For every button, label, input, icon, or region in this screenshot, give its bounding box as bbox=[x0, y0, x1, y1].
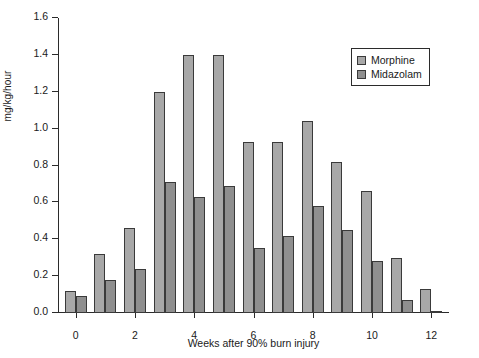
y-tick-label: 1.4 bbox=[33, 47, 48, 59]
bar-morphine-week-2 bbox=[124, 228, 135, 313]
y-tick-label: 0.2 bbox=[33, 268, 48, 280]
bar-morphine-week-10 bbox=[361, 191, 372, 313]
bar-midazolam-week-4 bbox=[194, 197, 205, 313]
y-tick: 1.2 bbox=[52, 91, 58, 92]
y-tick: 1.0 bbox=[52, 128, 58, 129]
x-tick: 2 bbox=[135, 313, 136, 318]
bar-midazolam-week-0 bbox=[76, 296, 87, 313]
y-tick: 0.4 bbox=[52, 238, 58, 239]
bar-morphine-week-3 bbox=[154, 92, 165, 313]
x-tick: 8 bbox=[313, 313, 314, 318]
bar-midazolam-week-7 bbox=[283, 236, 294, 313]
bar-midazolam-week-8 bbox=[313, 206, 324, 313]
x-tick: 12 bbox=[431, 313, 432, 318]
y-tick-label: 1.0 bbox=[33, 121, 48, 133]
bar-morphine-week-9 bbox=[331, 162, 342, 313]
y-tick: 1.4 bbox=[52, 54, 58, 55]
bar-morphine-week-11 bbox=[391, 258, 402, 313]
chart-figure: mg/kg/hour 0.00.20.40.60.81.01.21.41.6 0… bbox=[0, 0, 479, 358]
bar-morphine-week-6 bbox=[243, 142, 254, 313]
legend-swatch-icon-morphine bbox=[357, 56, 366, 65]
y-tick: 0.8 bbox=[52, 165, 58, 166]
x-tick: 10 bbox=[372, 313, 373, 318]
legend-item-midazolam: Midazolam bbox=[357, 67, 422, 81]
bar-midazolam-week-3 bbox=[165, 182, 176, 313]
legend-label-morphine: Morphine bbox=[371, 54, 415, 66]
y-axis-line bbox=[58, 18, 59, 313]
bar-midazolam-week-10 bbox=[372, 261, 383, 313]
bar-midazolam-week-1 bbox=[105, 280, 116, 313]
x-tick: 6 bbox=[254, 313, 255, 318]
bar-midazolam-week-6 bbox=[254, 248, 265, 313]
y-tick-label: 0.0 bbox=[33, 305, 48, 317]
bar-morphine-week-8 bbox=[302, 121, 313, 313]
y-tick: 0.0 bbox=[52, 312, 58, 313]
chart-legend: Morphine Midazolam bbox=[351, 48, 430, 86]
legend-swatch-icon-midazolam bbox=[357, 70, 366, 79]
legend-item-morphine: Morphine bbox=[357, 53, 422, 67]
y-axis-title: mg/kg/hour bbox=[2, 36, 13, 156]
legend-label-midazolam: Midazolam bbox=[371, 68, 422, 80]
bar-midazolam-week-9 bbox=[342, 230, 353, 313]
y-tick: 0.6 bbox=[52, 201, 58, 202]
bar-morphine-week-12 bbox=[420, 289, 431, 313]
y-tick: 0.2 bbox=[52, 275, 58, 276]
bar-midazolam-week-5 bbox=[224, 186, 235, 313]
bar-morphine-week-5 bbox=[213, 55, 224, 313]
bar-morphine-week-7 bbox=[272, 142, 283, 313]
bar-morphine-week-4 bbox=[183, 55, 194, 313]
bar-morphine-week-0 bbox=[65, 291, 76, 313]
y-tick-label: 0.6 bbox=[33, 194, 48, 206]
y-tick-label: 0.8 bbox=[33, 158, 48, 170]
y-tick: 1.6 bbox=[52, 17, 58, 18]
y-tick-label: 0.4 bbox=[33, 231, 48, 243]
bar-midazolam-week-11 bbox=[402, 300, 413, 313]
bar-midazolam-week-12 bbox=[431, 311, 442, 313]
x-axis-title: Weeks after 90% burn injury bbox=[58, 337, 449, 349]
x-tick: 4 bbox=[194, 313, 195, 318]
bar-morphine-week-1 bbox=[94, 254, 105, 313]
y-tick-label: 1.2 bbox=[33, 84, 48, 96]
x-tick: 0 bbox=[76, 313, 77, 318]
bar-midazolam-week-2 bbox=[135, 269, 146, 313]
y-tick-label: 1.6 bbox=[33, 10, 48, 22]
